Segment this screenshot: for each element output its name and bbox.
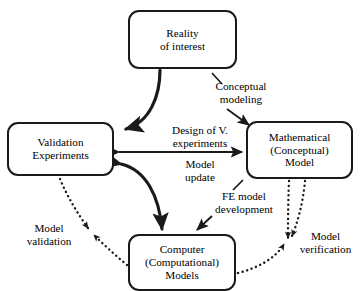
- edge-validation-to-model-validation: [60, 179, 88, 228]
- label-design-line-1: Design of V.: [152, 124, 248, 137]
- edge-math-right-to-verification: [292, 181, 305, 236]
- label-conceptual-line-2: modeling: [193, 93, 289, 106]
- label-fe-line-1: FE model: [196, 190, 292, 203]
- node-validation-line-1: Validation: [38, 136, 84, 149]
- label-model-update-line-2: update: [162, 171, 238, 184]
- node-computer-computational-models[interactable]: Computer (Computational) Models: [128, 234, 236, 291]
- label-fe-model-development: FE model development: [196, 190, 292, 216]
- node-reality-of-interest[interactable]: Reality of interest: [128, 10, 237, 69]
- node-reality-line-1: Reality: [166, 27, 198, 40]
- node-math-line-3: Model: [285, 156, 314, 169]
- label-design-of-validation-experiments: Design of V. experiments: [152, 124, 248, 150]
- edge-reality-to-validation: [126, 70, 160, 129]
- node-math-line-1: Mathematical: [269, 131, 331, 144]
- node-computer-line-1: Computer: [160, 243, 205, 256]
- edge-fe-label-to-computer: [197, 216, 212, 230]
- edge-validation-computer-bidirectional: [121, 164, 162, 229]
- node-math-line-2: (Conceptual): [270, 144, 328, 157]
- label-model-validation-line-2: validation: [8, 235, 90, 248]
- label-model-verification-line-1: Model: [291, 230, 360, 243]
- label-design-line-2: experiments: [152, 137, 248, 150]
- node-validation-experiments[interactable]: Validation Experiments: [7, 122, 114, 176]
- label-model-verification: Model verification: [291, 230, 360, 256]
- edge-computer-to-model-verification: [238, 244, 284, 273]
- label-model-update-line-1: Model: [162, 158, 238, 171]
- label-model-update: Model update: [162, 158, 238, 184]
- node-mathematical-conceptual-model[interactable]: Mathematical (Conceptual) Model: [246, 121, 353, 179]
- node-validation-line-2: Experiments: [32, 149, 89, 162]
- node-reality-line-2: of interest: [160, 40, 205, 53]
- label-conceptual-line-1: Conceptual: [193, 80, 289, 93]
- label-conceptual-modeling: Conceptual modeling: [193, 80, 289, 106]
- label-model-validation-line-1: Model: [8, 222, 90, 235]
- label-fe-line-2: development: [196, 203, 292, 216]
- vv-process-diagram: Reality of interest Validation Experimen…: [0, 0, 360, 291]
- edge-computer-to-model-validation: [94, 235, 127, 265]
- label-model-validation: Model validation: [8, 222, 90, 248]
- label-model-verification-line-2: verification: [291, 243, 360, 256]
- node-computer-line-3: Models: [165, 269, 199, 282]
- node-computer-line-2: (Computational): [145, 256, 219, 269]
- edge-conceptual-label-to-math: [227, 109, 249, 125]
